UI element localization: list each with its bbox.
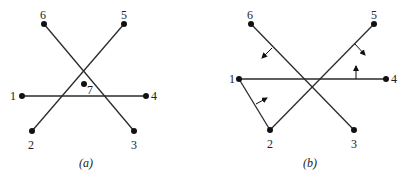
label-7: 7 bbox=[87, 83, 93, 97]
point-3 bbox=[351, 127, 357, 133]
label-3: 3 bbox=[351, 137, 357, 151]
segment-2-5 bbox=[32, 24, 124, 131]
point-1 bbox=[236, 76, 242, 82]
point-4 bbox=[143, 93, 149, 99]
segment-6-3 bbox=[44, 24, 134, 131]
label-2: 2 bbox=[28, 138, 34, 152]
label-6: 6 bbox=[247, 8, 253, 22]
caption-b: (b) bbox=[303, 156, 317, 170]
arrow-normal-1-2 bbox=[256, 98, 267, 104]
point-3 bbox=[131, 128, 137, 134]
label-4: 4 bbox=[151, 89, 157, 103]
label-5: 5 bbox=[121, 8, 127, 22]
diagram-b: 1 2 3 4 5 6 (b) bbox=[229, 8, 397, 170]
label-2: 2 bbox=[267, 137, 273, 151]
arrow-normal-2-5 bbox=[355, 44, 365, 55]
point-2 bbox=[267, 127, 273, 133]
segment-2-5 bbox=[270, 24, 374, 130]
point-2 bbox=[29, 128, 35, 134]
figure-canvas: 1 2 3 4 5 6 7 (a) 1 2 3 4 5 6 (b) bbox=[0, 0, 409, 177]
point-1 bbox=[19, 93, 25, 99]
label-1: 1 bbox=[10, 89, 16, 103]
arrow-normal-6-3 bbox=[262, 48, 272, 58]
label-6: 6 bbox=[40, 8, 46, 22]
label-4: 4 bbox=[391, 72, 397, 86]
label-1: 1 bbox=[229, 72, 235, 86]
caption-a: (a) bbox=[79, 156, 93, 170]
label-3: 3 bbox=[131, 138, 137, 152]
segment-1-2 bbox=[239, 79, 270, 130]
point-4 bbox=[383, 76, 389, 82]
diagram-a: 1 2 3 4 5 6 7 (a) bbox=[10, 8, 157, 170]
segment-6-3 bbox=[251, 24, 354, 130]
label-5: 5 bbox=[371, 8, 377, 22]
